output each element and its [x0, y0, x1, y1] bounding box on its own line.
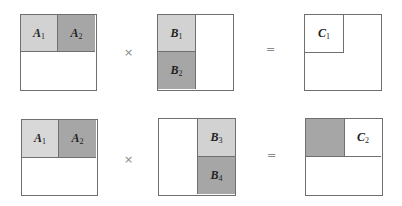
block-label: B1 [170, 26, 182, 41]
equals-operator: = [267, 149, 276, 162]
matrix-c-row2: C2 [305, 118, 383, 196]
block-label: C1 [318, 26, 330, 41]
block-b3: B3 [197, 119, 235, 157]
block-c-shaded [306, 119, 345, 157]
block-label: A2 [71, 131, 83, 146]
block-c2: C2 [345, 119, 381, 157]
matrix-a-row2: A1 A2 [21, 119, 98, 196]
block-b2: B2 [158, 52, 196, 89]
block-label: B4 [210, 168, 222, 183]
block-b4: B4 [197, 157, 235, 194]
times-operator: × [124, 46, 133, 59]
equals-operator: = [266, 43, 275, 56]
block-label: B3 [210, 130, 222, 145]
block-label: B2 [170, 63, 182, 78]
times-operator: × [124, 153, 133, 166]
block-a2: A2 [59, 120, 96, 158]
matrix-a-row1: A1 A2 [20, 14, 97, 91]
block-c1: C1 [305, 15, 344, 53]
block-label: A1 [33, 26, 45, 41]
matrix-c-row1: C1 [304, 14, 382, 91]
block-label: C2 [357, 130, 369, 145]
block-a1: A1 [22, 120, 59, 158]
block-a1: A1 [21, 15, 58, 52]
matrix-b-row1: B1 B2 [157, 14, 234, 91]
block-b1: B1 [158, 15, 196, 52]
block-label: A1 [34, 131, 46, 146]
matrix-b-row2: B3 B4 [158, 118, 236, 196]
block-a2: A2 [58, 15, 95, 52]
block-label: A2 [70, 26, 82, 41]
